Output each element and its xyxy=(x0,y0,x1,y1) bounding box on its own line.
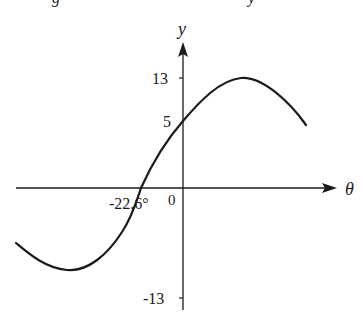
tick-label-13: 13 xyxy=(152,70,168,87)
tick-label-5: 5 xyxy=(163,113,171,130)
y-axis-label: y xyxy=(176,19,186,39)
tick-label-minus-13: -13 xyxy=(143,290,164,307)
top-fragment-right: y xyxy=(246,0,256,7)
theta-axis-label: θ xyxy=(345,179,354,199)
root-annotation: -22.6° xyxy=(109,195,149,212)
top-fragment-left: g xyxy=(52,0,60,7)
sine-graph: g y θ y 13 5 -13 0 -22.6° xyxy=(0,0,363,322)
origin-label: 0 xyxy=(168,192,176,208)
sine-curve xyxy=(16,78,306,270)
